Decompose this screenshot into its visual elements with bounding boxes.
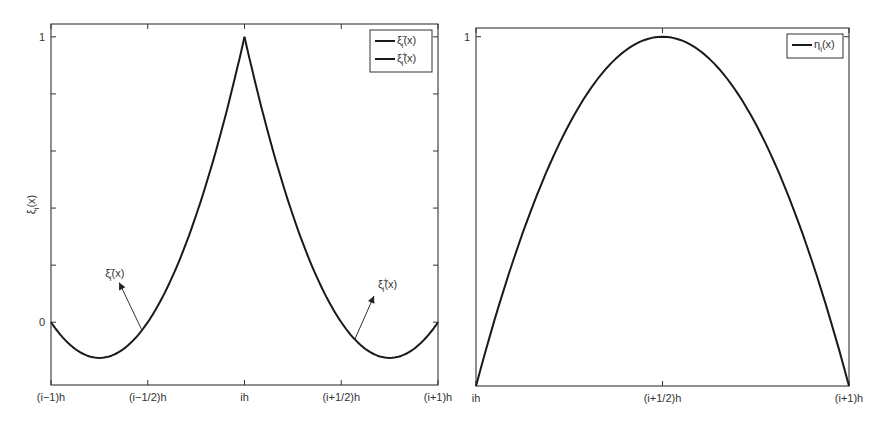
x-tick-label: (i+1)h xyxy=(835,392,863,404)
figure: (i−1)h(i−1/2)hih(i+1/2)h(i+1)h01ξi(x)ξ−i… xyxy=(0,0,882,430)
legend: ξ−i(x)ξ+i(x) xyxy=(370,30,432,72)
x-tick-label: (i+1)h xyxy=(424,391,452,403)
annotation-label: ξ+i(x) xyxy=(378,276,397,294)
plot-left-xi: (i−1)h(i−1/2)hih(i+1/2)h(i+1)h01ξi(x)ξ−i… xyxy=(25,24,452,403)
y-tick-label: 1 xyxy=(464,31,470,43)
x-tick-label: ih xyxy=(472,392,481,404)
plot-right-eta: ih(i+1/2)h(i+1)h1ηi(x) xyxy=(464,28,863,404)
series-line-eta xyxy=(476,37,849,386)
annotation-arrow xyxy=(355,296,374,339)
annotation-arrow xyxy=(119,283,142,331)
series-line-xi-plus xyxy=(245,37,439,358)
y-axis-label: ξi(x) xyxy=(25,195,41,215)
y-tick-label: 1 xyxy=(39,31,45,43)
x-tick-label: (i+1/2)h xyxy=(644,392,682,404)
axes-frame xyxy=(51,24,438,385)
x-tick-label: (i−1)h xyxy=(37,391,65,403)
x-tick-label: ih xyxy=(240,391,249,403)
annotation-label: ξ−i(x) xyxy=(105,265,124,283)
series-line-xi-minus xyxy=(51,37,245,358)
x-tick-label: (i+1/2)h xyxy=(322,391,360,403)
x-tick-label: (i−1/2)h xyxy=(129,391,167,403)
y-tick-label: 0 xyxy=(39,316,45,328)
legend: ηi(x) xyxy=(787,34,843,58)
